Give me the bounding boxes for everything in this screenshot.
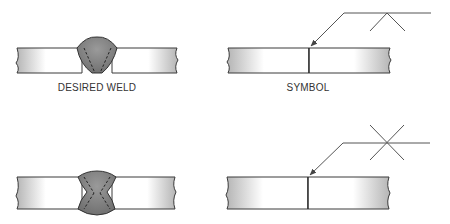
left-plate [226,177,308,209]
right-plate [112,48,178,73]
left-plate [227,48,309,73]
weld-bead [78,171,116,215]
desired-weld-label: DESIRED WELD [58,82,137,93]
weld-symbol-diagram [0,0,450,224]
desired-weld-double-v-panel [16,171,176,215]
right-plate [308,177,390,209]
symbol-double-v-panel [226,125,430,209]
symbol-single-v-panel [227,13,431,73]
left-plate [16,48,82,73]
left-plate [16,177,82,209]
v-groove-symbol [370,13,405,31]
right-plate [112,177,176,209]
right-plate [309,48,391,73]
desired-weld-single-v-panel [16,37,178,73]
symbol-label: SYMBOL [287,82,330,93]
arrow-leader [310,143,343,175]
arrow-leader [311,13,344,46]
weld-bead [77,37,117,73]
